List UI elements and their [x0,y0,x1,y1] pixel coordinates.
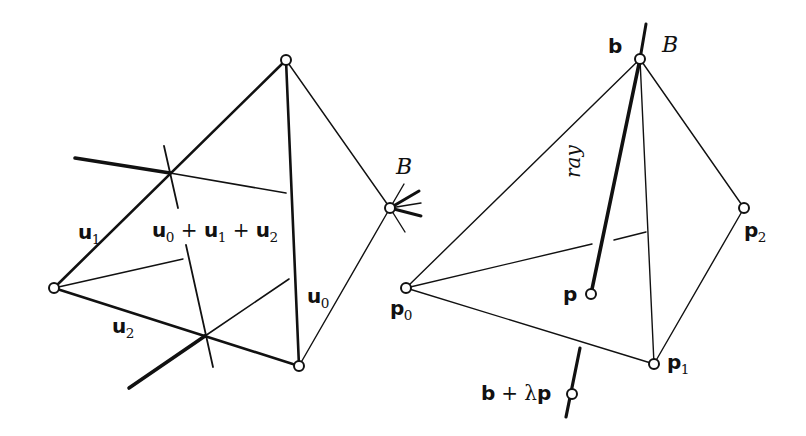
lower-thick-ray [129,336,205,388]
edge-b-p0 [406,59,640,288]
edge-b-p1 [640,59,654,364]
edge-left-hidden [54,259,183,288]
right-tetrahedron [401,24,749,417]
vertex-b [385,203,395,213]
upper-thin-ray [170,173,286,193]
edge-top-right [286,60,390,208]
label-p: p [563,284,577,304]
vertex-bottom [294,361,304,371]
label-p0: p0 [390,298,412,322]
edge-p0-p2-hidden-b [614,232,646,240]
label-u2: u2 [112,316,134,340]
edge-p1-p2 [654,208,744,364]
vertex-p1 [649,359,659,369]
vertex-p0 [401,283,411,293]
ray-lower-segment [566,348,580,417]
label-b: b [608,36,622,56]
point-p [586,289,596,299]
label-u1: u1 [78,222,100,246]
lower-thin-ray [205,279,289,336]
upper-thick-ray [75,158,170,173]
label-sum: u0 + u1 + u2 [152,220,278,244]
point-b-plus-lambda-p [567,389,577,399]
label-B-right: B [662,34,678,56]
edge-b-p2 [640,59,744,208]
label-u0: u0 [307,286,329,310]
vertex-top [281,55,291,65]
label-b-plus-lambda-p: b + λp [481,383,551,403]
vertex-left [49,283,59,293]
vertex-b [635,54,645,64]
cross-point-upper [168,171,172,175]
edge-p0-p1 [406,288,654,364]
label-p1: p1 [667,352,689,376]
label-ray: ray [563,145,583,178]
lower-cross-stroke [186,245,213,367]
label-B-left: B [396,156,412,178]
ray-line [591,59,640,294]
label-p2: p2 [744,220,766,244]
edge-u0 [286,60,299,366]
vertex-p2 [739,203,749,213]
cross-point-lower [203,334,207,338]
